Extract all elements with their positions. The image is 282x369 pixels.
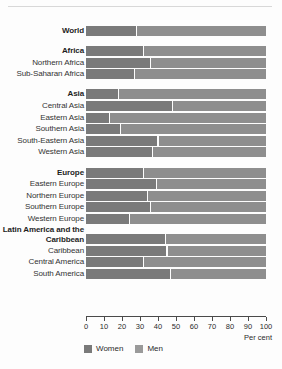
row-label: Southern Asia [0,124,84,134]
chart-row: South-Eastern Asia [0,136,282,146]
bar-segment-divider [143,257,144,267]
row-label: Central Asia [0,101,84,111]
bar-track [86,58,266,68]
chart-row: Sub-Saharan Africa [0,69,282,79]
axis-tick-label: 90 [244,322,252,331]
bar-track [86,147,266,157]
bar-segment-men [158,136,266,146]
legend-item: Men [135,345,163,353]
bar-track [86,234,266,244]
chart-row: World [0,26,282,36]
bar-segment-women [86,168,144,178]
axis-tick [212,317,213,321]
bar-segment-divider [147,191,148,201]
chart-row: Southern Europe [0,202,282,212]
chart-row: Central Asia [0,101,282,111]
legend-item: Women [84,345,123,353]
bar-segment-divider [152,147,153,157]
bar-track [86,179,266,189]
chart-row: Western Europe [0,214,282,224]
bar-segment-men [156,179,266,189]
row-label: Asia [0,89,84,99]
bar-segment-men [165,234,266,244]
bar-segment-men [153,147,266,157]
bar-track [86,269,266,279]
chart-row: Europe [0,168,282,178]
bar-track [86,89,266,99]
bar-track [86,191,266,201]
bar-segment-women [86,101,172,111]
bar-track [86,46,266,56]
bar-segment-men [144,46,266,56]
chart-row: Northern Europe [0,191,282,201]
bar-segment-women [86,214,129,224]
bar-segment-women [86,46,144,56]
bar-segment-women [86,26,136,36]
bar-track [86,214,266,224]
plot-area: WorldAfricaNorthern AfricaSub-Saharan Af… [0,20,282,312]
bar-segment-women [86,147,153,157]
bar-segment-divider [156,179,157,189]
row-label: Eastern Europe [0,179,84,189]
bar-track [86,202,266,212]
chart-legend: WomenMen [84,345,163,353]
axis-tick [140,317,141,321]
axis-tick-label: 100 [260,322,273,331]
chart-row: Eastern Europe [0,179,282,189]
bar-segment-men [151,202,266,212]
chart-row: Eastern Asia [0,113,282,123]
bar-segment-men [136,26,266,36]
legend-label: Men [147,345,163,353]
bar-track [86,168,266,178]
row-label: Eastern Asia [0,113,84,123]
bar-segment-men [135,69,266,79]
bar-segment-women [86,191,147,201]
bar-segment-men [144,257,266,267]
axis-tick-label: 20 [118,322,126,331]
axis-tick [176,317,177,321]
bar-segment-men [129,214,266,224]
row-label: Africa [0,46,84,56]
bar-segment-women [86,69,135,79]
row-label: Southern Europe [0,202,84,212]
bar-track [86,124,266,134]
axis-tick-label: 50 [172,322,180,331]
chart-container: WorldAfricaNorthern AfricaSub-Saharan Af… [0,0,282,369]
axis-tick-label: 60 [190,322,198,331]
legend-swatch-icon [135,345,143,353]
bar-track [86,113,266,123]
bar-segment-men [167,246,266,256]
bar-segment-women [86,113,109,123]
bar-track [86,101,266,111]
axis-tick [122,317,123,321]
bar-track [86,69,266,79]
axis-tick [158,317,159,321]
bar-track [86,246,266,256]
chart-row: Latin America and the Caribbean [0,234,282,244]
bar-segment-men [118,89,266,99]
bar-segment-men [144,168,266,178]
axis-tick [230,317,231,321]
bar-segment-divider [134,69,135,79]
x-axis-unit-label: Per cent [244,333,272,342]
chart-row: Northern Africa [0,58,282,68]
axis-tick-label: 70 [208,322,216,331]
bar-segment-divider [165,234,166,244]
bar-segment-men [109,113,266,123]
axis-tick-label: 10 [100,322,108,331]
row-label: South America [0,269,84,279]
axis-tick-label: 80 [226,322,234,331]
bar-segment-divider [150,202,151,212]
bar-segment-women [86,202,151,212]
bar-segment-divider [129,214,130,224]
row-label: South-Eastern Asia [0,136,84,146]
axis-tick [266,317,267,321]
axis-tick [248,317,249,321]
chart-row: Southern Asia [0,124,282,134]
bar-segment-women [86,124,120,134]
bar-segment-women [86,257,144,267]
row-label: Northern Africa [0,58,84,68]
bar-segment-women [86,136,158,146]
bar-segment-women [86,246,167,256]
row-label: Europe [0,168,84,178]
